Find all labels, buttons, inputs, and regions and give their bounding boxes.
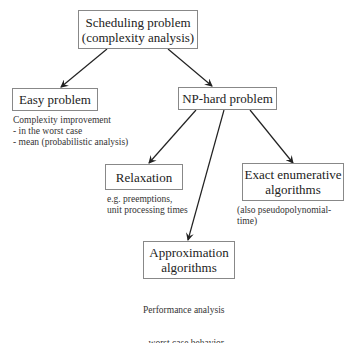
node-line: Scheduling problem (85, 15, 190, 30)
node-line: NP-hard problem (182, 91, 273, 106)
note-line: Complexity improvement (13, 115, 128, 126)
node-line: Approximation (149, 245, 228, 260)
edge-nphard-approx (188, 110, 224, 240)
note-line: - mean (probabilistic analysis) (13, 137, 128, 148)
node-line: Relaxation (116, 170, 172, 185)
node-line: Exact enumerative (244, 167, 341, 182)
note-relaxation: e.g. preemptions, unit processing times (107, 194, 188, 216)
node-exact-enumerative-algorithms: Exact enumerative algorithms (242, 163, 344, 201)
edge-nphard-relax (149, 110, 196, 163)
node-easy-problem: Easy problem (12, 88, 98, 111)
note-line: unit processing times (107, 205, 188, 216)
note-line: - in the worst case (13, 126, 128, 137)
node-approximation-algorithms: Approximation algorithms (143, 241, 235, 279)
note-line: (also pseudopolynomial- (237, 205, 331, 216)
edge-nphard-exact (250, 110, 293, 163)
node-line: algorithms (265, 182, 321, 197)
note-line: - worst case behavior (143, 338, 238, 343)
node-np-hard-problem: NP-hard problem (178, 87, 277, 110)
edge-root-easy (61, 49, 107, 87)
node-relaxation: Relaxation (105, 164, 183, 190)
node-scheduling-problem: Scheduling problem (complexity analysis) (78, 10, 198, 49)
node-line: (complexity analysis) (82, 30, 194, 45)
note-line: time) (237, 216, 331, 227)
node-line: Easy problem (19, 92, 91, 107)
edge-root-nphard (168, 49, 212, 86)
note-line: e.g. preemptions, (107, 194, 188, 205)
note-approximation: Performance analysis - worst case behavi… (143, 283, 238, 343)
note-line: Performance analysis (143, 305, 238, 316)
note-easy-problem: Complexity improvement - in the worst ca… (13, 115, 128, 148)
note-exact-enumerative: (also pseudopolynomial- time) (237, 205, 331, 227)
node-line: algorithms (161, 260, 217, 275)
